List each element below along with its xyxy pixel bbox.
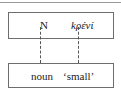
category-label: N	[40, 19, 48, 31]
top-rule	[0, 2, 121, 3]
upper-box: N kρένί	[8, 12, 114, 39]
word-form-label: kρένί	[71, 19, 93, 31]
meaning-gloss: ‘small’	[63, 70, 94, 82]
left-dashed-connector	[40, 27, 41, 63]
category-gloss: noun	[31, 70, 53, 82]
right-dashed-connector	[78, 27, 79, 63]
lower-box: noun ‘small’	[8, 63, 114, 88]
